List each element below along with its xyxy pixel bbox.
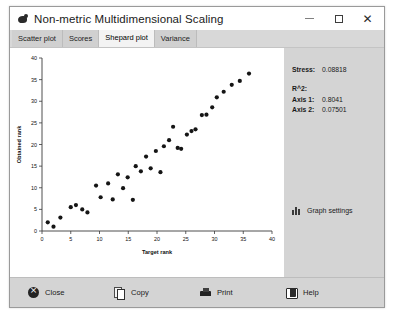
data-point [80,207,84,211]
data-point [134,164,138,168]
axis1-label: Axis 1: [292,96,322,103]
data-point [162,144,166,148]
data-point [131,198,135,202]
title-bar: Non-metric Multidimensional Scaling ✕ [10,7,384,30]
data-point [158,170,162,174]
y-tick-label: 30 [31,98,37,104]
data-point [185,132,189,136]
copy-pages-icon [114,287,125,298]
data-point [189,129,193,133]
app-window: Non-metric Multidimensional Scaling ✕ Sc… [9,6,385,308]
data-point [171,125,175,129]
data-point [215,95,219,99]
data-point [247,71,251,75]
minimize-icon[interactable] [295,7,324,30]
stress-label: Stress: [292,66,322,73]
close-button-label: Close [45,288,64,297]
help-button[interactable]: Help [268,287,354,298]
copy-button[interactable]: Copy [96,287,182,298]
data-point [200,113,204,117]
x-tick-label: 35 [240,236,246,242]
x-tick-label: 5 [69,236,72,242]
tab-scatter-plot[interactable]: Scatter plot [12,30,63,47]
data-point [121,186,125,190]
close-icon[interactable]: ✕ [353,7,384,30]
data-point [238,79,242,83]
shepard-plot-pane: 05101520253035400510152025303540Target r… [10,48,284,277]
data-point [99,195,103,199]
y-tick-label: 5 [34,206,37,212]
data-point [85,210,89,214]
y-tick-label: 35 [31,77,37,83]
y-tick-label: 40 [31,55,37,61]
r2-heading: R^2: [292,85,384,92]
data-point [106,181,110,185]
y-axis-title: Obtained rank [16,125,22,163]
tab-bar: Scatter plot Scores Shepard plot Varianc… [10,30,384,48]
data-point [230,83,234,87]
content-area: 05101520253035400510152025303540Target r… [10,48,384,277]
tab-variance[interactable]: Variance [155,30,197,47]
graph-settings-button[interactable]: Graph settings [292,206,353,215]
x-axis-title: Target rank [142,249,173,255]
data-point [179,147,183,151]
maximize-icon[interactable] [324,7,353,30]
axis1-row: Axis 1: 0.8041 [292,96,384,103]
data-point [149,166,153,170]
graph-settings-label: Graph settings [307,207,353,214]
data-point [139,169,143,173]
statistics-block: Stress: 0.08818 R^2: Axis 1: 0.8041 Axis… [284,48,384,116]
shepard-scatter-chart: 05101520253035400510152025303540Target r… [10,48,284,268]
print-button[interactable]: Print [182,287,268,298]
y-tick-label: 0 [34,228,37,234]
axis2-value: 0.07501 [322,106,347,113]
x-tick-label: 20 [154,236,160,242]
stress-row: Stress: 0.08818 [292,66,384,73]
book-icon [286,287,297,298]
printer-icon [200,287,211,298]
bottom-toolbar: Close Copy Print Help [10,277,384,307]
app-icon [17,13,29,25]
close-circle-icon [28,287,39,298]
stress-value: 0.08818 [322,66,347,73]
axis2-row: Axis 2: 0.07501 [292,106,384,113]
data-point [51,225,55,229]
side-panel: Stress: 0.08818 R^2: Axis 1: 0.8041 Axis… [284,48,384,277]
spacer [292,76,384,85]
data-point [144,155,148,159]
data-point [154,149,158,153]
data-point [94,183,98,187]
y-tick-label: 15 [31,163,37,169]
x-tick-label: 30 [212,236,218,242]
data-point [204,113,208,117]
help-button-label: Help [303,288,319,297]
data-point [74,203,78,207]
axis2-label: Axis 2: [292,106,322,113]
data-point [46,220,50,224]
data-point [111,197,115,201]
close-button[interactable]: Close [10,287,96,298]
tab-shepard-plot[interactable]: Shepard plot [99,29,155,47]
data-point [69,205,73,209]
x-tick-label: 40 [269,236,275,242]
y-tick-label: 20 [31,142,37,148]
data-point [58,215,62,219]
data-point [193,127,197,131]
data-point [167,138,171,142]
copy-button-label: Copy [131,288,149,297]
x-tick-label: 25 [183,236,189,242]
print-button-label: Print [217,288,233,297]
y-tick-label: 10 [31,185,37,191]
bar-chart-icon [292,206,302,215]
data-point [116,172,120,176]
tab-scores[interactable]: Scores [63,30,99,47]
x-tick-label: 0 [41,236,44,242]
x-tick-label: 15 [125,236,131,242]
data-point [126,175,130,179]
axis1-value: 0.8041 [322,96,343,103]
window-controls: ✕ [295,7,384,30]
window-title: Non-metric Multidimensional Scaling [34,13,224,25]
data-point [210,105,214,109]
y-tick-label: 25 [31,120,37,126]
data-point [222,90,226,94]
